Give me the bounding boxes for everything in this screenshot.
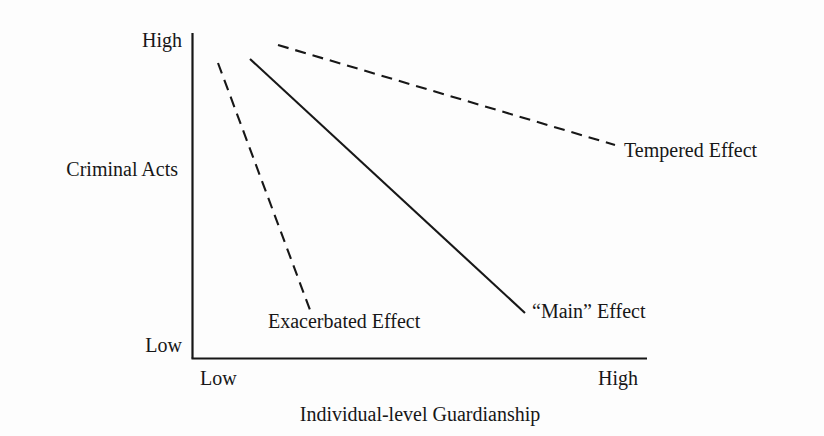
series-line-tempered-effect bbox=[278, 45, 615, 145]
y-tick-label-low: Low bbox=[82, 335, 182, 355]
x-tick-label-low: Low bbox=[200, 368, 237, 388]
series-line-exacerbated-effect bbox=[218, 63, 310, 310]
figure-root: High Low Criminal Acts Low High Individu… bbox=[0, 0, 824, 436]
x-tick-label-high: High bbox=[598, 368, 638, 388]
series-label-exacerbated-effect: Exacerbated Effect bbox=[268, 311, 420, 331]
series-label-tempered-effect: Tempered Effect bbox=[624, 140, 757, 160]
y-axis-title: Criminal Acts bbox=[18, 159, 178, 179]
y-tick-label-high: High bbox=[82, 30, 182, 50]
series-label-main-effect: “Main” Effect bbox=[532, 301, 645, 321]
plot-canvas bbox=[0, 0, 824, 436]
x-axis-title: Individual-level Guardianship bbox=[230, 404, 610, 424]
series-line-main-effect bbox=[250, 59, 525, 313]
